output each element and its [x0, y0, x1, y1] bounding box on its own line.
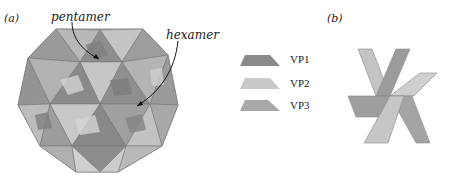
legend-label-vp1: VP1	[290, 53, 310, 65]
figure-graphics	[0, 0, 453, 178]
hexamer-pinwheel	[348, 49, 437, 143]
legend-swatch-vp2	[240, 78, 280, 89]
legend-swatch-vp3	[240, 100, 280, 111]
panel-b-label: (b)	[327, 12, 343, 25]
legend-label-vp3: VP3	[290, 99, 310, 111]
capsid-icosahedron	[18, 29, 178, 172]
legend-label-vp2: VP2	[290, 77, 310, 89]
legend-swatch-vp1	[240, 55, 280, 66]
